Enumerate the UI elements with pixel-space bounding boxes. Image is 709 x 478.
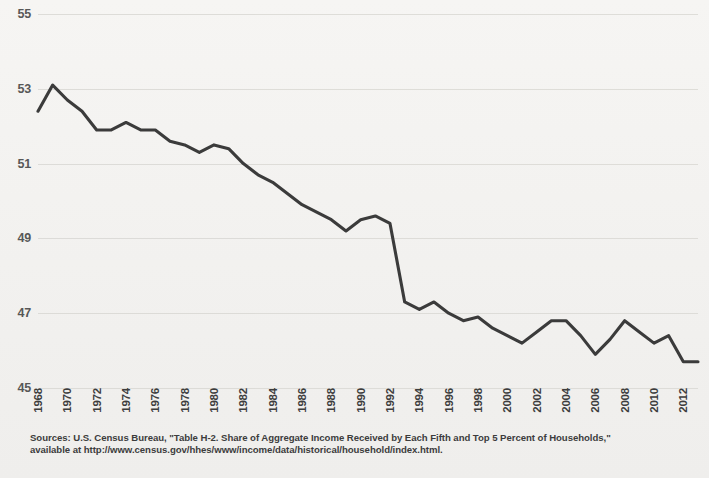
source-caption: Sources: U.S. Census Bureau, "Table H-2.…: [30, 432, 680, 456]
x-axis-tick-label: 1972: [91, 388, 103, 413]
series-polyline: [38, 85, 698, 362]
x-axis-tick-label: 1968: [32, 388, 44, 413]
y-axis-tick-label: 53: [17, 82, 31, 96]
x-axis-tick-label: 1998: [472, 388, 484, 413]
x-axis-tick-label: 1974: [120, 388, 132, 413]
x-axis-tick-label: 1996: [443, 388, 455, 413]
x-axis-tick-label: 2004: [560, 388, 572, 413]
x-axis-tick-label: 2002: [531, 388, 543, 413]
x-axis-tick-label: 1990: [355, 388, 367, 413]
x-axis-tick-label: 2008: [619, 388, 631, 413]
y-axis-tick-label: 47: [17, 306, 31, 320]
x-axis-tick-label: 1978: [179, 388, 191, 413]
x-axis-tick-label: 1986: [296, 388, 308, 413]
y-axis-tick-label: 55: [17, 7, 31, 21]
source-line-2: available at http://www.census.gov/hhes/…: [30, 444, 680, 456]
x-axis-tick-label: 1992: [384, 388, 396, 413]
x-axis-tick-label: 1984: [267, 388, 279, 413]
x-axis-tick-label: 1994: [413, 388, 425, 413]
chart-figure: 454749515355 196819701972197419761978198…: [0, 0, 709, 478]
source-line-1: Sources: U.S. Census Bureau, "Table H-2.…: [30, 432, 680, 444]
y-axis-tick-label: 45: [17, 381, 31, 395]
x-axis-tick-label: 1988: [325, 388, 337, 413]
x-axis-tick-label: 1982: [237, 388, 249, 413]
x-axis-tick-label: 1976: [149, 388, 161, 413]
x-axis-tick-label: 2010: [648, 388, 660, 413]
y-axis-tick-label: 51: [17, 157, 31, 171]
plot-area: 454749515355: [38, 14, 698, 388]
x-axis-tick-label: 2006: [589, 388, 601, 413]
x-axis-ticks: 1968197019721974197619781980198219841986…: [38, 388, 698, 432]
x-axis-tick-label: 1970: [61, 388, 73, 413]
line-series: [38, 14, 698, 388]
y-axis-tick-label: 49: [17, 231, 31, 245]
x-axis-tick-label: 2000: [501, 388, 513, 413]
x-axis-tick-label: 2012: [677, 388, 689, 413]
x-axis-tick-label: 1980: [208, 388, 220, 413]
